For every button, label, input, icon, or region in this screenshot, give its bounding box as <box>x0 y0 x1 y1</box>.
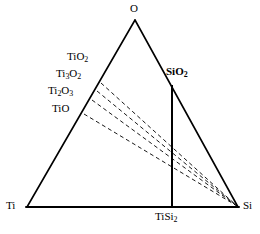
tieline-ti2o3-si <box>92 100 237 206</box>
phase-label-tio2-base: TiO <box>67 50 84 62</box>
tieline-ti3o2-si <box>97 91 237 206</box>
triangle-edge-o-si <box>135 20 238 207</box>
vertex-label-titanium: Ti <box>6 200 15 211</box>
vertex-label-silicon-text: Si <box>243 199 252 211</box>
phase-label-ti2o3-sub2: 3 <box>69 89 73 98</box>
phase-label-tisi2: TiSi2 <box>155 211 178 222</box>
phase-label-ti3o2-ti: Ti <box>56 67 65 79</box>
phase-label-sio2: SiO2 <box>166 66 188 77</box>
tieline-tio-si <box>84 114 237 206</box>
phase-label-ti2o3-ti: Ti <box>48 84 57 96</box>
phase-label-ti3o2-sub2: 2 <box>77 72 81 81</box>
phase-label-sio2-subscript: 2 <box>184 70 188 79</box>
phase-label-sio2-base: SiO <box>166 65 184 77</box>
phase-label-ti3o2: Ti3O2 <box>56 68 81 79</box>
phase-label-ti2o3: Ti2O3 <box>48 85 73 96</box>
phase-label-tio-text: TiO <box>52 102 69 114</box>
vertex-label-silicon: Si <box>243 200 252 211</box>
ternary-phase-diagram: O Ti Si TiO2 Ti3O2 Ti2O3 TiO SiO2 TiSi2 <box>0 0 260 234</box>
vertex-label-titanium-text: Ti <box>6 199 15 211</box>
phase-label-tisi2-subscript: 2 <box>174 215 178 224</box>
vertex-label-oxygen-text: O <box>130 2 138 14</box>
phase-label-tio: TiO <box>52 103 69 114</box>
tieline-tio2-si <box>101 83 237 206</box>
vertex-label-oxygen: O <box>130 3 138 14</box>
phase-label-tio2-subscript: 2 <box>84 55 88 64</box>
diagram-canvas <box>0 0 260 234</box>
phase-label-tio2: TiO2 <box>67 51 88 62</box>
phase-label-tisi2-base: TiSi <box>155 210 174 222</box>
triangle-edge-ti-o <box>27 20 135 207</box>
